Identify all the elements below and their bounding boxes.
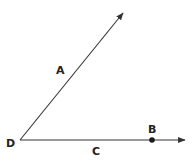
label-b: B bbox=[148, 123, 156, 136]
ray-a bbox=[20, 13, 123, 140]
point-b-dot bbox=[149, 137, 155, 143]
angle-diagram: A B C D bbox=[0, 0, 192, 164]
label-c: C bbox=[92, 145, 100, 158]
label-d: D bbox=[6, 137, 15, 150]
label-a: A bbox=[56, 64, 65, 77]
